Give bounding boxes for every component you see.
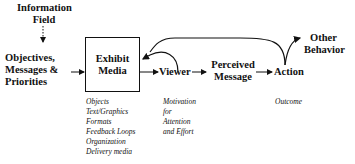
annotation-viewer: Motivation for Attention and Effort [163,97,196,137]
node-label: Other [304,32,345,44]
annotation-line: and Effort [163,127,196,137]
node-label: Perceived [207,59,259,71]
annotation-line: Objects [86,97,135,107]
annotation-line: Attention [163,117,196,127]
annotation-action: Outcome [275,97,302,107]
node-information-field: Information Field [17,2,71,26]
node-other-behavior: Other Behavior [304,32,345,56]
node-label: Exhibit [85,53,140,65]
node-perceived-message: Perceived Message [207,59,259,83]
annotation-exhibit-media: Objects Text/Graphics Formats Feedback L… [86,97,135,157]
node-label: Objectives, [5,52,58,64]
annotation-line: Feedback Loops [86,127,135,137]
annotation-line: for [163,107,196,117]
node-label: Field [17,14,71,26]
node-label: Media [85,65,140,77]
annotation-line: Formats [86,117,135,127]
node-label: Priorities [5,76,58,88]
node-viewer: Viewer [159,66,191,78]
node-action: Action [274,66,304,78]
node-label: Messages & [5,64,58,76]
annotation-line: Outcome [275,97,302,107]
annotation-line: Motivation [163,97,196,107]
node-label: Message [207,71,259,83]
annotation-line: Text/Graphics [86,107,135,117]
annotation-line: Delivery media [86,147,135,157]
node-objectives: Objectives, Messages & Priorities [5,52,58,88]
node-label: Information [17,2,71,14]
node-label: Behavior [304,44,345,56]
annotation-line: Organization [86,137,135,147]
node-exhibit-media: Exhibit Media [85,53,140,77]
